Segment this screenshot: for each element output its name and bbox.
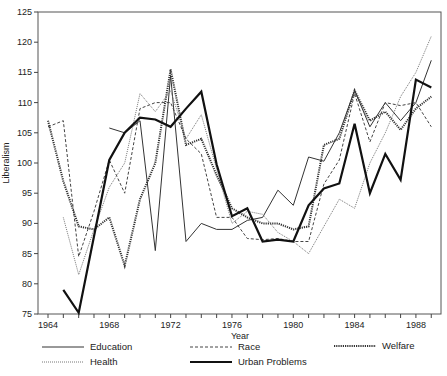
legend-label: Race — [238, 341, 260, 352]
series-layer — [48, 36, 431, 313]
legend-label: Welfare — [382, 340, 415, 351]
legend-label: Health — [90, 356, 117, 367]
x-axis: 1964196819721976198019841988 — [38, 314, 431, 330]
heavy-solid-line-icon — [190, 359, 232, 365]
y-tick-label: 95 — [22, 188, 32, 198]
dashed-line-icon — [190, 344, 232, 350]
y-tick-label: 115 — [18, 67, 32, 77]
x-tick-label: 1968 — [99, 320, 119, 330]
y-tick-label: 75 — [22, 309, 32, 319]
x-tick-label: 1984 — [345, 320, 365, 330]
x-tick-label: 1976 — [222, 320, 242, 330]
series-education — [109, 60, 431, 250]
legend-item-race: Race — [190, 341, 260, 352]
plot-area — [38, 12, 441, 314]
series-urban-problems — [63, 80, 431, 313]
line-chart: 7580859095100105110115120125 19641968197… — [0, 0, 447, 340]
y-tick-label: 80 — [22, 279, 32, 289]
y-tick-label: 125 — [17, 7, 32, 17]
plot-border — [38, 12, 441, 314]
y-axis: 7580859095100105110115120125 — [17, 7, 38, 319]
legend-item-education: Education — [42, 341, 132, 352]
legend-label: Education — [90, 341, 132, 352]
y-tick-label: 110 — [18, 98, 32, 108]
x-axis-title: Year — [231, 331, 249, 340]
x-tick-label: 1972 — [161, 320, 181, 330]
series-welfare — [48, 69, 431, 265]
legend: Education Race Welfare Health Urban Prob… — [0, 340, 447, 376]
light-dotted-line-icon — [42, 359, 84, 365]
legend-item-welfare: Welfare — [334, 340, 415, 351]
y-tick-label: 85 — [22, 249, 32, 259]
y-tick-label: 90 — [22, 218, 32, 228]
legend-item-health: Health — [42, 356, 117, 367]
legend-label: Urban Problems — [238, 356, 307, 367]
legend-item-urban-problems: Urban Problems — [190, 356, 307, 367]
y-axis-title: Liberalism — [1, 142, 11, 183]
x-tick-label: 1964 — [38, 320, 58, 330]
y-tick-label: 100 — [17, 158, 32, 168]
heavy-dotted-line-icon — [334, 343, 376, 349]
x-tick-label: 1980 — [283, 320, 303, 330]
x-tick-label: 1988 — [406, 320, 426, 330]
y-tick-label: 105 — [17, 128, 32, 138]
y-tick-label: 120 — [17, 37, 32, 47]
solid-line-icon — [42, 344, 84, 350]
